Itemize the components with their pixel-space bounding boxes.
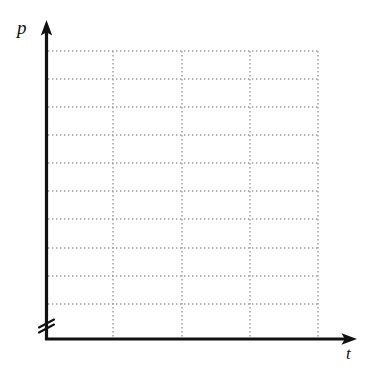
y-axis	[41, 20, 52, 340]
x-axis-label: t	[346, 345, 351, 362]
vertical-gridlines	[113, 51, 318, 338]
x-axis	[45, 333, 357, 344]
plot-canvas	[0, 0, 373, 379]
chart-figure: p t	[0, 0, 373, 379]
y-axis-label: p	[17, 18, 27, 37]
horizontal-gridlines	[48, 51, 318, 304]
